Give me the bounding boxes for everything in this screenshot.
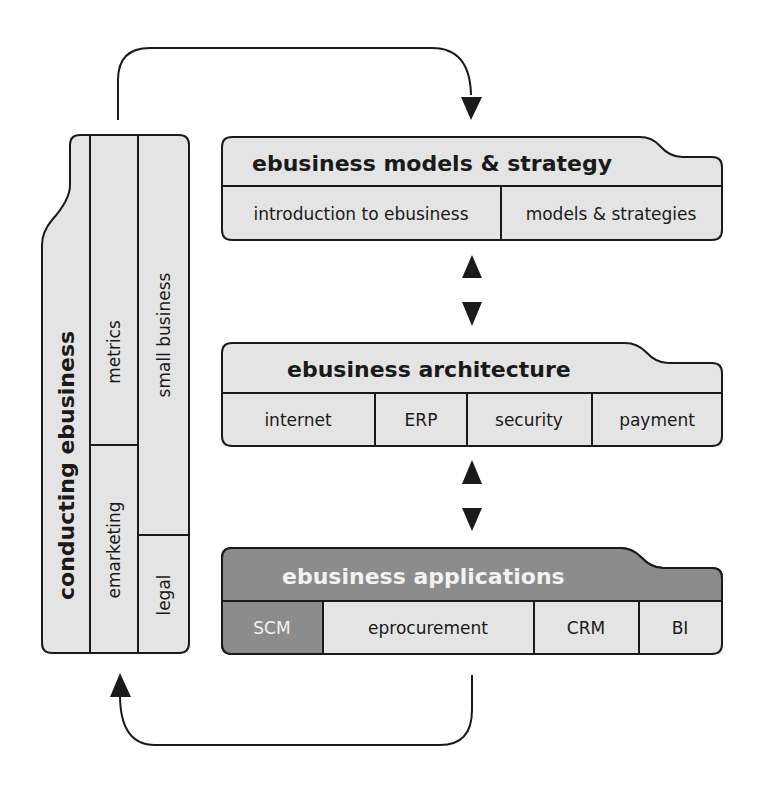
box-architecture: ebusiness architecture internet ERP secu… [222,343,722,446]
box-title: ebusiness models & strategy [252,151,612,176]
bidirectional-arrow-2 [462,460,482,531]
cell-scm: SCM [253,618,290,638]
box-conducting: conducting ebusiness metrics emarketing … [42,135,189,653]
cell-emarketing: emarketing [104,501,124,598]
box-title: ebusiness architecture [287,357,571,382]
arrow-up-icon [462,460,482,484]
bottom-loop-arrow [110,673,472,745]
cell-introduction: introduction to ebusiness [253,204,468,224]
arrow-down-icon [462,508,482,531]
cell-security: security [495,410,563,430]
cell-internet: internet [264,410,332,430]
cell-legal: legal [154,574,174,615]
cell-models-strategies: models & strategies [526,204,697,224]
arrow-down-icon [462,302,482,326]
bidirectional-arrow-1 [462,255,482,326]
cell-bi: BI [672,618,689,638]
box-applications: ebusiness applications SCM eprocurement … [222,548,722,654]
box-models-strategy: ebusiness models & strategy introduction… [222,137,722,240]
cell-eprocurement: eprocurement [368,618,488,638]
cell-crm: CRM [567,618,605,638]
box-title: ebusiness applications [282,564,565,589]
cell-small-business: small business [154,272,174,397]
arrow-up-icon [462,255,482,278]
cell-payment: payment [619,410,695,430]
arrowhead-down-icon [461,97,482,120]
ebusiness-diagram: ebusiness models & strategy introduction… [0,0,765,786]
box-title: conducting ebusiness [54,331,79,600]
cell-erp: ERP [405,410,438,430]
arrowhead-up-icon [110,673,131,697]
top-loop-arrow [118,48,482,120]
cell-metrics: metrics [104,320,124,384]
